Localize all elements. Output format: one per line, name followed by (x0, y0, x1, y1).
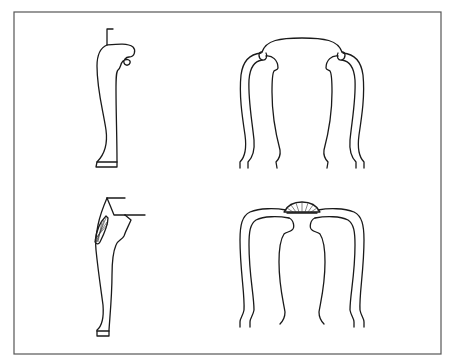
knee-block (107, 198, 125, 215)
shell-leg-side-view (95, 198, 145, 336)
left-inner-leg (279, 218, 294, 324)
leg-outline (96, 198, 131, 336)
left-outer-leg-inner-edge (249, 217, 289, 327)
right-inner-leg (324, 56, 338, 168)
right-inner-leg (310, 218, 325, 324)
left-inner-leg (266, 56, 280, 168)
crest-rail (262, 38, 342, 52)
shell-carving (95, 216, 108, 244)
leg-outline (96, 44, 135, 167)
plain-leg-side-view (96, 29, 135, 167)
right-outer-leg-inner-edge (315, 217, 355, 327)
shell-legs-front-view (240, 202, 364, 327)
rail-stub (107, 29, 113, 45)
crest-shell-carving (284, 202, 320, 213)
figure-border (14, 12, 441, 354)
figure-canvas (0, 0, 454, 362)
plain-legs-front-view (240, 38, 364, 168)
left-outer-leg-inner-edge (248, 60, 262, 168)
right-outer-leg-inner-edge (342, 60, 356, 168)
